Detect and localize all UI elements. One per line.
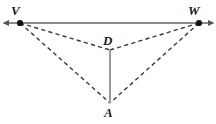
point-v-dot: [17, 20, 23, 26]
segment-va: [20, 23, 110, 103]
point-label-a: A: [104, 106, 113, 119]
point-w-dot: [196, 20, 202, 26]
point-label-w: W: [188, 4, 200, 17]
point-label-d: D: [103, 34, 112, 47]
segment-wd: [110, 23, 199, 50]
segment-wa: [110, 23, 199, 103]
point-label-v: V: [11, 4, 20, 17]
segment-vd: [20, 23, 110, 50]
geometry-figure: V W D A: [0, 0, 216, 124]
